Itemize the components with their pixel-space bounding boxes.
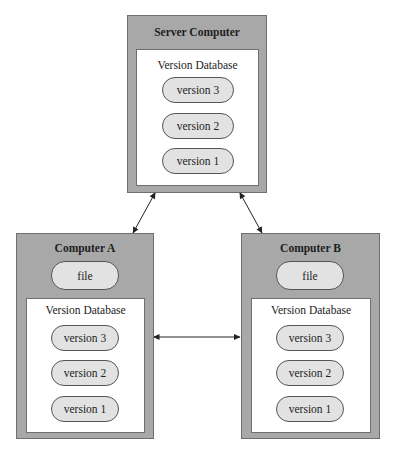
computer-a-title: Computer A [17, 242, 153, 254]
computer-a-version-1: version 1 [51, 396, 119, 422]
server-b-sync-arrow [240, 193, 262, 233]
computer-b-version-3: version 3 [276, 325, 344, 351]
computer-b-file: file [276, 261, 344, 290]
computer-b-title: Computer B [242, 242, 379, 254]
computer-a-version-2: version 2 [51, 360, 119, 386]
computer-a-database-title: Version Database [27, 304, 144, 316]
computer-b-database-title: Version Database [252, 304, 370, 316]
computer-a-version-3: version 3 [51, 325, 119, 351]
server-version-3: version 3 [162, 77, 234, 103]
server-version-1: version 1 [162, 148, 234, 174]
server-a-sync-arrow [133, 193, 155, 233]
computer-a-file: file [51, 261, 119, 290]
server-database-title: Version Database [137, 59, 258, 71]
computer-b-version-2: version 2 [276, 360, 344, 386]
computer-b-version-1: version 1 [276, 396, 344, 422]
server-version-2: version 2 [162, 113, 234, 139]
server-computer-title: Server Computer [128, 26, 266, 38]
